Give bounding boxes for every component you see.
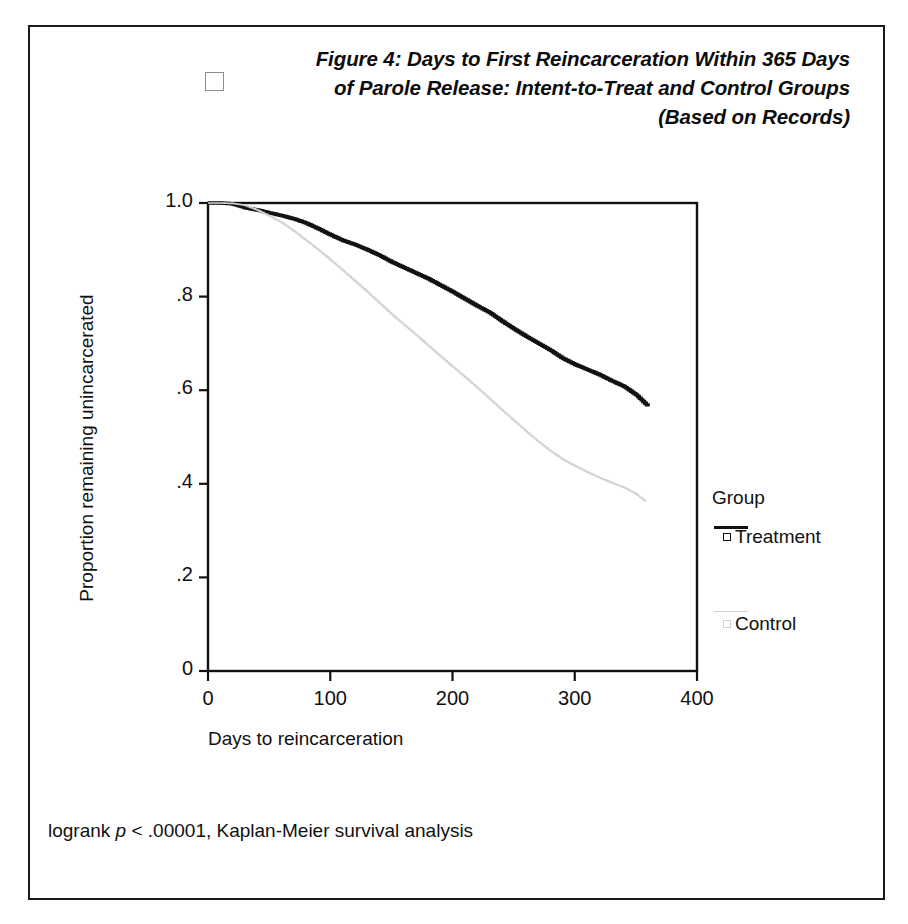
x-tick-label: 200 <box>413 687 493 710</box>
y-tick-label: .6 <box>133 376 193 399</box>
open-square-marker-icon <box>723 533 731 541</box>
footnote-suffix: < .00001, Kaplan-Meier survival analysis <box>126 820 473 841</box>
x-axis-title: Days to reincarceration <box>208 728 403 750</box>
y-tick-label: .4 <box>133 470 193 493</box>
y-tick-label: 1.0 <box>133 189 193 212</box>
footnote-prefix: logrank <box>48 820 116 841</box>
legend-entry-control[interactable]: Control <box>712 606 877 636</box>
y-tick-label: .8 <box>133 283 193 306</box>
legend-label-control: Control <box>735 613 796 635</box>
y-axis-title: Proportion remaining unincarcerated <box>76 283 98 613</box>
chart-canvas <box>0 0 908 924</box>
survival-chart: Proportion remaining unincarcerated Days… <box>0 0 908 924</box>
y-tick-label: 0 <box>133 657 193 680</box>
y-tick-label: .2 <box>133 563 193 586</box>
open-square-marker-icon <box>723 620 731 628</box>
x-tick-label: 400 <box>657 687 737 710</box>
x-tick-label: 0 <box>168 687 248 710</box>
legend-entry-treatment[interactable]: Treatment <box>712 521 877 551</box>
footnote-p-symbol: p <box>116 820 127 841</box>
series-line-treatment <box>208 203 648 407</box>
x-tick-label: 300 <box>535 687 615 710</box>
legend-label-treatment: Treatment <box>735 526 821 548</box>
figure-page: Figure 4: Days to First Reincarceration … <box>0 0 908 924</box>
legend-title: Group <box>712 487 877 509</box>
series-line-control <box>208 203 646 502</box>
figure-footnote: logrank p < .00001, Kaplan-Meier surviva… <box>48 820 473 842</box>
legend-line-control <box>714 611 748 612</box>
chart-legend: Group Treatment Control <box>712 487 877 636</box>
x-tick-label: 100 <box>290 687 370 710</box>
